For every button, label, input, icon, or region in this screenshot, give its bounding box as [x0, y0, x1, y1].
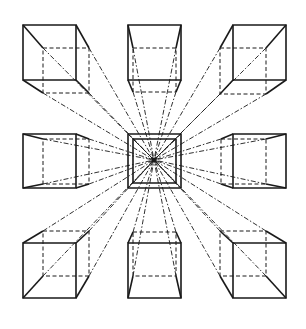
cube-bottom-center — [128, 232, 181, 298]
cube-depth-edge — [266, 80, 286, 94]
cube-back-face — [43, 139, 89, 184]
vanishing-ray — [154, 48, 176, 160]
cube-depth-edge — [220, 231, 233, 243]
cube-depth-edge — [266, 276, 286, 298]
cube-top-center — [128, 25, 181, 92]
cube-depth-edge — [76, 25, 89, 48]
cube-depth-edge — [76, 134, 89, 139]
cube-bottom-left — [23, 231, 89, 298]
cube-middle-left — [23, 134, 89, 188]
cube-top-right — [220, 25, 286, 94]
vanishing-ray — [89, 48, 154, 160]
cube-depth-edge — [23, 80, 43, 93]
cube-depth-edge — [76, 184, 89, 188]
cube-depth-edge — [23, 276, 43, 298]
vanishing-ray — [43, 160, 154, 184]
vanishing-ray — [133, 160, 154, 276]
vanishing-ray — [89, 160, 154, 276]
cube-front-face — [128, 243, 181, 298]
cube-depth-edge — [23, 25, 43, 48]
cube-back-face — [133, 48, 176, 92]
cube-depth-edge — [176, 232, 181, 243]
cube-middle-right — [221, 134, 286, 188]
cube-depth-edge — [128, 232, 133, 243]
cube-depth-edge — [220, 25, 233, 48]
cube-front-face — [128, 25, 181, 80]
cube-depth-edge — [76, 80, 89, 93]
cube-depth-edge — [76, 276, 89, 298]
cube-depth-edge — [221, 184, 233, 188]
cube-depth-edge — [266, 231, 286, 243]
vanishing-point — [152, 158, 157, 163]
cube-depth-edge — [76, 231, 89, 243]
cube-depth-edge — [266, 25, 286, 48]
cube-depth-edge — [220, 80, 233, 94]
cube-depth-edge — [23, 231, 43, 243]
cube-back-face — [133, 232, 176, 276]
cube-front-face — [23, 134, 76, 188]
vanishing-ray — [133, 48, 154, 160]
cube-top-left — [23, 25, 89, 93]
perspective-diagram — [0, 0, 306, 329]
cube-depth-edge — [221, 134, 233, 139]
cube-depth-edge — [220, 276, 233, 298]
cube-bottom-right — [220, 231, 286, 298]
cube-depth-edge — [176, 80, 181, 92]
vanishing-ray — [154, 160, 176, 276]
cube-front-face — [233, 134, 286, 188]
cube-depth-edge — [128, 80, 133, 92]
